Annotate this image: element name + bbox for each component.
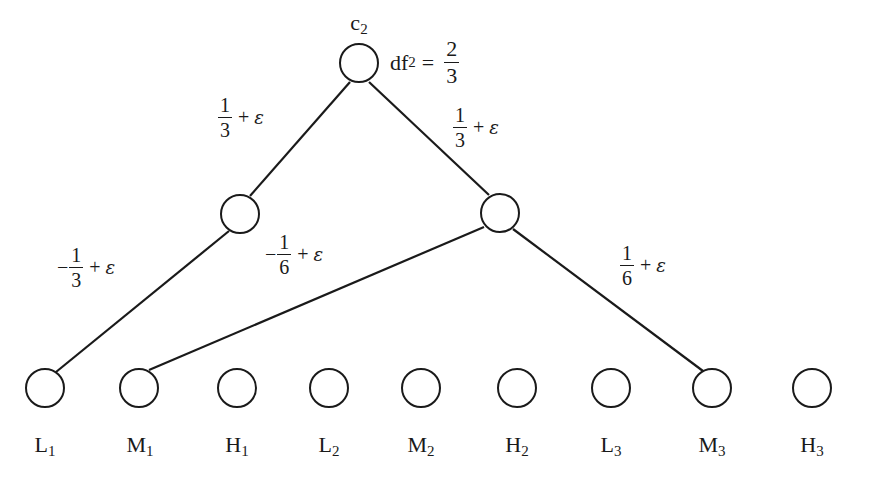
leaf-node-M3 <box>692 368 732 408</box>
edge-weight-c2-left: 13 +ε <box>218 95 264 140</box>
leaf-node-L2 <box>309 368 349 408</box>
middle-node-left <box>220 194 260 234</box>
edge-right-M3 <box>513 229 703 371</box>
edge-c2-left <box>250 82 350 196</box>
edge-weight-left-L1: − 13 +ε <box>57 245 115 290</box>
middle-node-right <box>480 193 520 233</box>
root-label: c2 <box>350 10 367 38</box>
leaf-label-L1: L1 <box>35 432 56 460</box>
leaf-label-H1: H1 <box>225 432 248 460</box>
leaf-node-L1 <box>25 368 65 408</box>
leaf-label-M3: M3 <box>698 432 725 460</box>
leaf-node-H1 <box>217 368 257 408</box>
leaf-label-H3: H3 <box>800 432 823 460</box>
edge-weight-c2-right: 13 +ε <box>453 105 499 150</box>
leaf-node-M2 <box>401 368 441 408</box>
edge-weight-right-M1: − 16 +ε <box>265 232 323 277</box>
degrees-of-freedom-label: df2 = 23 <box>390 38 463 87</box>
leaf-node-L3 <box>591 368 631 408</box>
leaf-node-H2 <box>497 368 537 408</box>
leaf-label-L2: L2 <box>319 432 340 460</box>
leaf-label-H2: H2 <box>505 432 528 460</box>
leaf-label-M1: M1 <box>126 432 153 460</box>
leaf-label-M2: M2 <box>407 432 434 460</box>
leaf-label-L3: L3 <box>601 432 622 460</box>
leaf-node-M1 <box>119 368 159 408</box>
edge-weight-right-M3: 16 +ε <box>620 243 666 288</box>
root-node-c2 <box>339 43 379 83</box>
leaf-node-H3 <box>792 368 832 408</box>
